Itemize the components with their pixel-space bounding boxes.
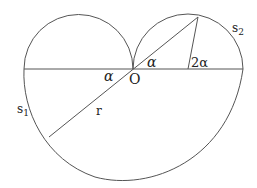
label-origin: O	[129, 71, 140, 87]
left-semicircle	[24, 14, 133, 69]
geometry-diagram: O α α 2α r s1 s2	[0, 0, 257, 188]
label-two-alpha: 2α	[191, 55, 208, 70]
radius-line	[49, 17, 198, 137]
label-alpha-right: α	[147, 54, 157, 70]
label-s2: s2	[232, 21, 244, 37]
label-alpha-left: α	[104, 68, 114, 84]
label-s1: s1	[17, 102, 29, 118]
label-radius: r	[96, 104, 102, 118]
